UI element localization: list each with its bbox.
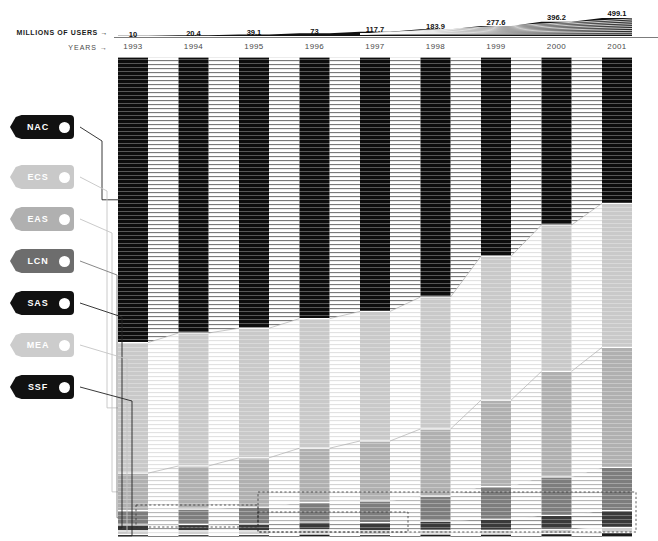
series-bar[interactable] [421, 535, 451, 537]
series-bar[interactable] [360, 58, 390, 311]
series-bar[interactable] [481, 58, 511, 256]
series-bar[interactable] [118, 526, 148, 531]
series-bar[interactable] [300, 449, 330, 502]
series-bar[interactable] [179, 531, 209, 534]
flow-ribbon [390, 57, 421, 311]
flow-ribbon [330, 311, 361, 448]
tag-leader-line [80, 127, 118, 200]
series-bar[interactable] [179, 334, 209, 466]
series-bar[interactable] [118, 474, 148, 510]
series-bar[interactable] [300, 535, 330, 537]
series-bar[interactable] [300, 319, 330, 447]
flow-ribbon [148, 57, 179, 343]
tag-leader-line [80, 219, 118, 492]
flow-ribbon [209, 57, 240, 333]
flow-ribbon [209, 507, 240, 524]
flow-ribbon [148, 525, 179, 531]
flow-ribbon [330, 522, 361, 531]
flow-ribbon [269, 57, 300, 328]
series-bar[interactable] [118, 58, 148, 342]
series-bar[interactable] [481, 401, 511, 486]
flow-ribbon [209, 531, 240, 535]
series-bar[interactable] [179, 58, 209, 333]
flow-ribbon [572, 57, 603, 225]
series-bar[interactable] [542, 372, 572, 476]
series-bar[interactable] [602, 348, 632, 467]
flow-ribbon [209, 535, 240, 537]
series-bar[interactable] [118, 511, 148, 524]
series-bar[interactable] [542, 530, 572, 533]
flow-ribbon [209, 458, 240, 509]
series-bar[interactable] [481, 520, 511, 530]
series-bar[interactable] [179, 467, 209, 509]
flow-ribbon [148, 509, 179, 525]
flow-ribbon [390, 534, 421, 537]
flow-ribbon [390, 521, 421, 531]
series-bar[interactable] [542, 226, 572, 371]
series-bar[interactable] [239, 329, 269, 457]
series-bar[interactable] [602, 58, 632, 203]
series-bar[interactable] [602, 468, 632, 510]
flow-chart-svg [0, 0, 658, 541]
flow-ribbon [209, 328, 240, 466]
series-bar[interactable] [239, 58, 269, 328]
flow-ribbon [451, 57, 482, 297]
flow-ribbon [511, 57, 542, 256]
flow-ribbon [148, 531, 179, 535]
flow-ribbon [269, 534, 300, 537]
series-bar[interactable] [360, 312, 390, 440]
series-bar[interactable] [360, 523, 390, 530]
flow-ribbon [390, 429, 421, 501]
flow-ribbon [148, 333, 179, 473]
series-bar[interactable] [179, 510, 209, 524]
series-bar[interactable] [542, 534, 572, 536]
series-bar[interactable] [239, 508, 269, 524]
series-bar[interactable] [602, 533, 632, 536]
series-bar[interactable] [481, 535, 511, 537]
series-bar[interactable] [542, 516, 572, 529]
flow-ribbon [390, 297, 421, 441]
series-bar[interactable] [239, 458, 269, 506]
series-bar[interactable] [239, 535, 269, 536]
series-bar[interactable] [300, 58, 330, 318]
flow-chart-plot [0, 0, 658, 541]
series-bar[interactable] [300, 523, 330, 529]
series-bar[interactable] [421, 522, 451, 530]
flow-ribbon [451, 534, 482, 537]
series-bar[interactable] [602, 204, 632, 347]
flow-ribbon [330, 57, 361, 319]
series-bar[interactable] [421, 298, 451, 429]
flow-ribbon [330, 441, 361, 502]
flow-ribbon [390, 530, 421, 534]
series-bar[interactable] [179, 525, 209, 530]
flow-ribbon [148, 535, 179, 537]
flow-ribbon [511, 534, 542, 537]
series-bar[interactable] [421, 497, 451, 521]
series-bar[interactable] [360, 442, 390, 501]
series-bar[interactable] [602, 511, 632, 527]
series-bar[interactable] [360, 535, 390, 536]
flow-ribbon [330, 534, 361, 537]
series-bar[interactable] [421, 58, 451, 297]
flow-ribbon [148, 466, 179, 511]
series-bar[interactable] [542, 478, 572, 515]
flow-ribbon [572, 203, 603, 371]
flow-ribbon [269, 319, 300, 458]
flow-ribbon [269, 448, 300, 507]
series-bar[interactable] [481, 257, 511, 400]
flow-ribbon [451, 519, 482, 530]
tag-leader-line [80, 303, 122, 528]
series-bar[interactable] [179, 535, 209, 536]
series-bar[interactable] [118, 343, 148, 472]
series-bar[interactable] [602, 528, 632, 532]
series-bar[interactable] [421, 430, 451, 496]
series-bar[interactable] [542, 58, 572, 225]
